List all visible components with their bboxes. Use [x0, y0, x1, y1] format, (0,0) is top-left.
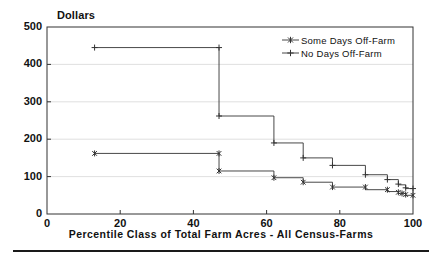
grid-lines	[47, 64, 413, 176]
chart-figure: Dollars 0100200300400500 020406080100 So…	[0, 0, 442, 262]
footer-divider	[13, 250, 429, 252]
y-tick-500: 500	[2, 20, 42, 32]
legend-markers	[282, 37, 299, 56]
y-tick-300: 300	[2, 95, 42, 107]
plot-wrapper: Dollars 0100200300400500 020406080100 So…	[0, 0, 442, 262]
legend-label-some-days: Some Days Off-Farm	[301, 35, 395, 46]
y-tick-200: 200	[2, 132, 42, 144]
legend-marker-asterisk	[282, 37, 299, 43]
x-axis-label: Percentile Class of Total Farm Acres - A…	[0, 228, 442, 240]
series-no-days-off-farm	[92, 45, 416, 192]
legend-marker-plus	[282, 50, 299, 56]
data-series	[92, 45, 416, 199]
legend-label-no-days: No Days Off-Farm	[301, 48, 382, 59]
y-tick-400: 400	[2, 57, 42, 69]
y-tick-100: 100	[2, 170, 42, 182]
